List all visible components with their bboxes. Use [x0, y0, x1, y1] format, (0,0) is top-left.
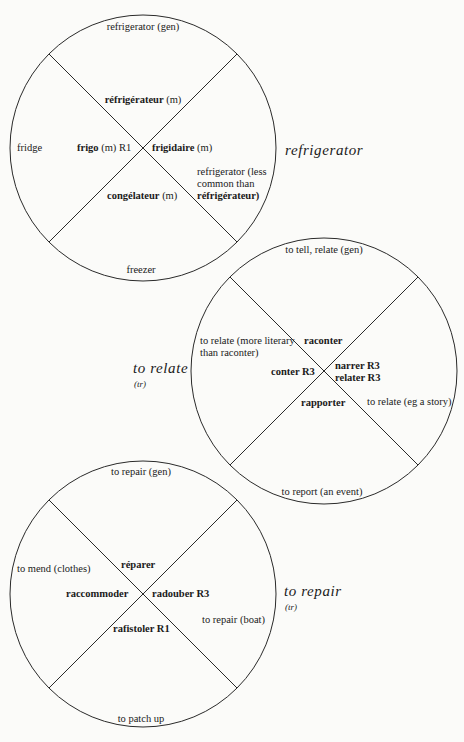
- term-note: (m): [162, 190, 177, 201]
- label-left-to-relate-literary: to relate (more literary than raconter): [200, 335, 295, 359]
- term-word: frigidaire: [152, 142, 194, 153]
- term-note: (m): [166, 94, 181, 105]
- label-top-refrigerator-gen: refrigerator (gen): [107, 21, 180, 33]
- diagram-title-to-repair: to repair: [284, 583, 342, 600]
- term-north-reparer: réparer: [121, 559, 155, 571]
- label-line: réfrigérateur): [197, 190, 267, 202]
- label-right-to-relate-story: to relate (eg a story): [367, 396, 452, 408]
- label-line: refrigerator (less: [197, 166, 267, 178]
- term-west-frigo: frigo (m) R1: [77, 142, 131, 154]
- term-east-radouber: radouber R3: [152, 588, 209, 600]
- label-right-to-repair-boat: to repair (boat): [202, 614, 265, 626]
- label-line: common than: [197, 178, 267, 190]
- term-north-refrigerateur: réfrigérateur (m): [105, 94, 182, 106]
- diagram-subtitle-transitive: (tr): [285, 602, 297, 612]
- semantic-field-diagrams: refrigerator (gen) réfrigérateur (m) fri…: [0, 0, 464, 742]
- term-note: (m): [197, 142, 212, 153]
- term-west-conter: conter R3: [271, 366, 315, 378]
- term-line: relater R3: [335, 372, 380, 384]
- label-top-to-repair-gen: to repair (gen): [111, 466, 171, 478]
- term-note: (m) R1: [101, 142, 131, 153]
- circle-refrigerator: [10, 15, 276, 281]
- diagram-subtitle-transitive: (tr): [134, 379, 146, 389]
- term-word: congélateur: [107, 190, 160, 201]
- label-bottom-to-patch-up: to patch up: [118, 713, 165, 725]
- diagram-lines: [0, 0, 464, 742]
- term-line: narrer R3: [335, 360, 380, 372]
- circle-to-repair: [10, 461, 276, 727]
- term-east-narrer-relater: narrer R3 relater R3: [335, 360, 380, 384]
- label-right-refrigerator-less-common: refrigerator (less common than réfrigéra…: [197, 166, 267, 202]
- label-text: than raconter): [200, 347, 259, 358]
- term-word: frigo: [77, 142, 99, 153]
- term-word: réfrigérateur: [105, 94, 164, 105]
- label-top-to-tell-relate: to tell, relate (gen): [285, 244, 363, 256]
- term-east-frigidaire: frigidaire (m): [152, 142, 212, 154]
- circle-to-relate: [191, 238, 457, 504]
- label-left-fridge: fridge: [17, 142, 42, 154]
- diagram-title-to-relate: to relate: [133, 360, 188, 377]
- label-line: to relate (more literary: [200, 335, 295, 347]
- label-bottom-freezer: freezer: [126, 264, 155, 276]
- term-south-rafistoler: rafistoler R1: [113, 623, 170, 635]
- term-north-raconter: raconter: [304, 335, 342, 347]
- label-left-to-mend-clothes: to mend (clothes): [17, 563, 90, 575]
- diagram-title-refrigerator: refrigerator: [285, 142, 363, 159]
- label-line: than raconter): [200, 347, 295, 359]
- term-south-congelateur: congélateur (m): [107, 190, 177, 202]
- term-south-rapporter: rapporter: [301, 397, 345, 409]
- term-west-raccommoder: raccommoder: [66, 588, 128, 600]
- label-bottom-to-report: to report (an event): [282, 486, 363, 498]
